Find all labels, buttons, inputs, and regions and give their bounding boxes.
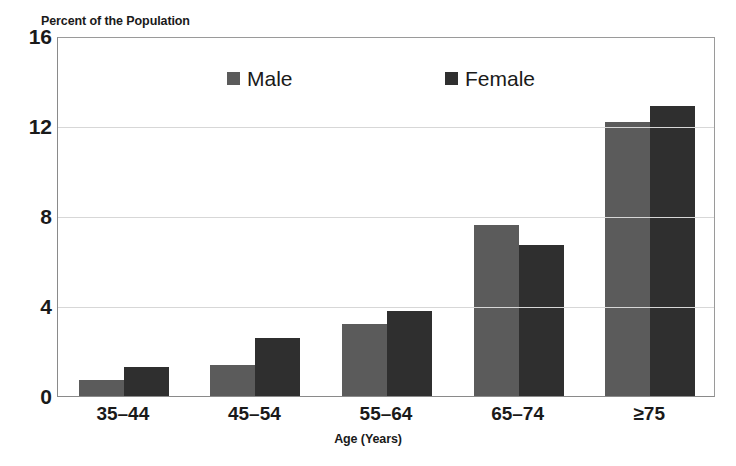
gridline (58, 127, 714, 128)
legend-label-female: Female (465, 68, 535, 89)
x-tick-label: 65–74 (452, 404, 584, 423)
y-tick-label: 16 (4, 26, 52, 47)
x-axis: 35–4445–5455–6465–74≥75 (57, 404, 715, 432)
male-legend-swatch-icon (227, 72, 240, 85)
bar-male-2 (342, 324, 387, 396)
y-tick-label: 8 (4, 206, 52, 227)
bar-male-0 (79, 380, 124, 396)
chart-legend: Male Female (57, 68, 715, 98)
gridline (58, 217, 714, 218)
y-tick-label: 12 (4, 116, 52, 137)
x-tick-label: 35–44 (57, 404, 189, 423)
x-tick-label: 55–64 (320, 404, 452, 423)
bar-male-4 (605, 122, 650, 397)
x-tick-label: ≥75 (583, 404, 715, 423)
bar-male-3 (474, 225, 519, 396)
bar-male-1 (210, 365, 255, 397)
bar-female-3 (519, 245, 564, 396)
x-axis-title: Age (Years) (0, 432, 736, 446)
y-axis: 0481216 (0, 0, 52, 466)
legend-item-male: Male (227, 68, 293, 89)
legend-item-female: Female (445, 68, 535, 89)
y-tick-label: 4 (4, 296, 52, 317)
bar-chart: Percent of the Population 0481216 35–444… (0, 0, 736, 466)
x-tick-label: 45–54 (189, 404, 321, 423)
legend-label-male: Male (247, 68, 293, 89)
bar-female-1 (255, 338, 300, 397)
chart-title: Percent of the Population (41, 14, 190, 28)
y-tick-label: 0 (4, 386, 52, 407)
bar-female-4 (650, 106, 695, 396)
female-legend-swatch-icon (445, 72, 458, 85)
bar-female-2 (387, 311, 432, 397)
bar-female-0 (124, 367, 169, 396)
gridline (58, 307, 714, 308)
